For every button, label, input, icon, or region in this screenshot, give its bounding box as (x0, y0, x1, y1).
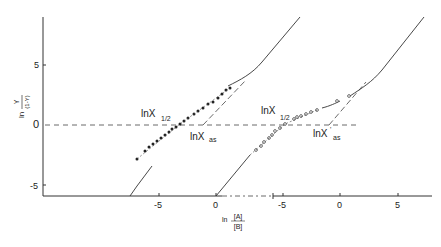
circle-marker (263, 141, 266, 144)
x-tick-label-left-0: 0 (213, 200, 218, 210)
figure-caption-cutoff (0, 238, 441, 247)
x-label-denominator: [B] (234, 223, 243, 231)
circle-marker (279, 127, 282, 130)
annotation-subscript: 1/2 (161, 115, 171, 122)
left-data-connector (137, 88, 230, 159)
x-label-numerator: [A] (234, 213, 243, 221)
y-label-numerator: Y (13, 99, 20, 104)
right-fitted-curve-lower (216, 155, 250, 196)
annotation-main: lnX (141, 108, 156, 119)
star-marker (144, 150, 147, 153)
left-fitted-curve-lower (130, 166, 152, 196)
left-asymptote (203, 80, 246, 125)
hill-plot-chart: 5 0 -5 ln Y (1-Y) -5 0 -5 0 5 ln [A] [B] (0, 0, 441, 247)
left-fitted-curve-upper (228, 17, 300, 86)
annotation-subscript: as (209, 136, 217, 143)
y-label-denominator: (1-Y) (24, 95, 30, 108)
x-tick-label-right-0: 0 (337, 200, 342, 210)
right-annotation-lnx-half: lnX 1/2 (261, 105, 290, 121)
left-annotation-lnx-half: lnX 1/2 (141, 108, 171, 122)
x-axis-label: ln [A] [B] (222, 213, 245, 231)
y-tick-label-0: 0 (33, 118, 39, 130)
x-tick-label-right-5: 5 (395, 200, 400, 210)
annotation-main: lnX (261, 105, 276, 116)
annotation-subscript: 1/2 (280, 114, 290, 121)
left-annotation-lnx-as: lnX as (190, 131, 217, 143)
circle-marker (271, 134, 274, 137)
star-marker (156, 140, 159, 143)
y-tick-label-m5: -5 (30, 181, 38, 191)
x-tick-label-left-m5: -5 (154, 200, 162, 210)
annotation-main: lnX (313, 128, 328, 139)
star-marker (160, 137, 163, 140)
y-tick-label-5: 5 (34, 60, 39, 70)
star-marker (152, 143, 155, 146)
star-marker (171, 128, 174, 131)
right-annotation-lnx-as-prime: lnX ' as (313, 126, 341, 141)
circle-marker (296, 116, 299, 119)
annotation-subscript: as (333, 134, 341, 141)
star-marker (212, 101, 215, 104)
x-tick-label-right-m5: -5 (278, 200, 286, 210)
right-fitted-curve-upper (350, 17, 424, 96)
annotation-prime: ' (330, 126, 331, 133)
circle-marker (336, 100, 339, 103)
y-label-ln: ln (17, 112, 26, 118)
circle-marker (274, 130, 277, 133)
annotation-main: lnX (190, 131, 205, 142)
x-label-ln: ln (222, 216, 228, 223)
circle-marker (348, 95, 351, 98)
y-axis-label: ln Y (1-Y) (13, 95, 30, 118)
star-marker (217, 97, 220, 100)
